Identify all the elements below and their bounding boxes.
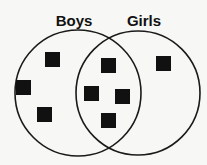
marker-both-3 [115,89,130,104]
boys-label: Boys [56,12,93,29]
girls-label: Girls [127,12,161,29]
marker-both-2 [84,86,99,101]
venn-svg: Boys Girls [0,0,207,165]
marker-both-4 [101,113,116,128]
marker-both-1 [101,58,116,73]
markers-group [16,52,171,128]
venn-diagram: Boys Girls [0,0,207,165]
marker-boys-only-3 [37,107,52,122]
marker-boys-only-2 [16,80,31,95]
marker-boys-only-1 [45,52,60,67]
marker-girls-only-1 [156,56,171,71]
